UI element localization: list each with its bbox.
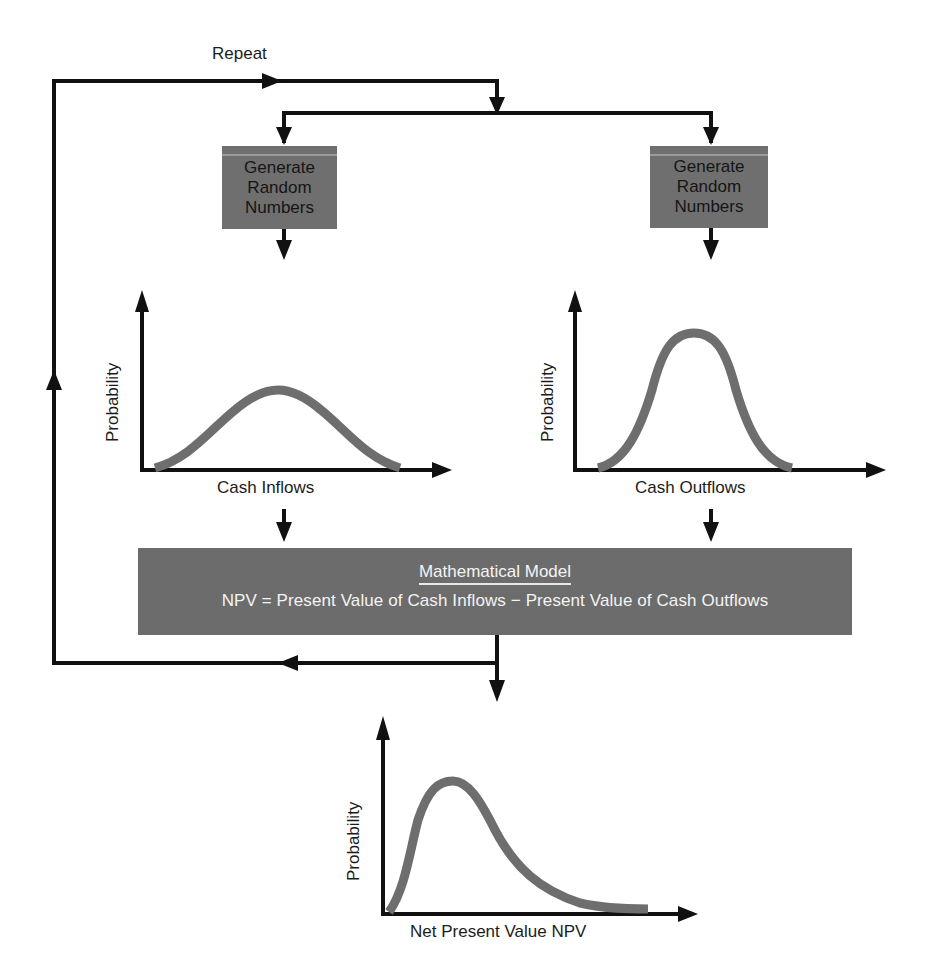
generator-right-line-2: Random: [677, 177, 741, 197]
generator-left-line-2: Random: [247, 178, 311, 198]
inflows-x-axis-label: Cash Inflows: [217, 478, 314, 498]
generate-random-numbers-left-box: Generate Random Numbers: [222, 146, 337, 229]
model-title: Mathematical Model: [419, 562, 571, 585]
model-equation: NPV = Present Value of Cash Inflows − Pr…: [138, 591, 852, 611]
generator-right-line-1: Generate: [674, 157, 745, 177]
generator-left-line-1: Generate: [244, 158, 315, 178]
generator-output-connectors: [284, 228, 711, 250]
arrow-inflows-to-model-icon: [276, 522, 292, 542]
arrow-outflows-to-model-icon: [703, 522, 719, 542]
npv-y-axis-label: Probability: [344, 802, 364, 881]
inflows-chart-axes: [140, 300, 438, 470]
generate-random-numbers-right-box: Generate Random Numbers: [650, 146, 768, 228]
repeat-label: Repeat: [212, 44, 267, 64]
npv-x-axis-label: Net Present Value NPV: [410, 922, 586, 942]
outflows-x-axis-label: Cash Outflows: [635, 478, 746, 498]
generator-right-line-3: Numbers: [675, 197, 744, 217]
outflows-y-axis-arrow-icon: [568, 290, 582, 312]
npv-chart-axes: [381, 730, 684, 914]
outflows-distribution-curve: [598, 333, 792, 468]
arrow-model-to-npv-icon: [489, 680, 505, 702]
mathematical-model-box: Mathematical Model NPV = Present Value o…: [138, 548, 852, 635]
npv-x-axis-arrow-icon: [678, 906, 698, 922]
inflows-x-axis-arrow-icon: [432, 462, 452, 478]
arrow-to-right-generator-icon: [703, 127, 719, 145]
npv-distribution-curve: [389, 781, 648, 912]
branch-connector: [284, 113, 711, 143]
loop-arrow-left-icon: [278, 655, 298, 671]
loop-arrow-right-icon: [262, 73, 282, 89]
arrow-right-generator-out-icon: [703, 240, 719, 260]
box-highlight-stripe: [650, 154, 768, 156]
inflows-y-axis-arrow-icon: [135, 290, 149, 312]
generator-left-line-3: Numbers: [245, 198, 314, 218]
inflows-distribution-curve: [155, 390, 400, 468]
arrow-to-left-generator-icon: [276, 127, 292, 145]
inflows-y-axis-label: Probability: [103, 363, 123, 442]
box-highlight-stripe: [222, 154, 337, 156]
arrow-left-generator-out-icon: [276, 240, 292, 260]
diagram-canvas: [0, 0, 925, 980]
chart-output-connectors: [284, 509, 711, 530]
loop-arrow-up-icon: [46, 370, 62, 390]
outflows-y-axis-label: Probability: [538, 363, 558, 442]
outflows-x-axis-arrow-icon: [866, 462, 886, 478]
outflows-chart-axes: [573, 300, 872, 470]
npv-y-axis-arrow-icon: [376, 716, 390, 740]
